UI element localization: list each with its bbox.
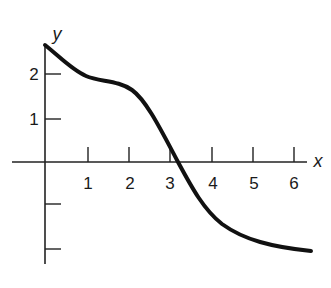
x-ticks <box>88 147 294 162</box>
y-tick-label-2: 2 <box>29 65 38 84</box>
x-tick-label-2: 2 <box>125 174 134 193</box>
x-tick-label-5: 5 <box>249 174 258 193</box>
x-tick-label-3: 3 <box>165 174 174 193</box>
y-tick-label-1: 1 <box>29 110 38 129</box>
x-tick-label-1: 1 <box>83 174 92 193</box>
x-tick-label-6: 6 <box>289 174 298 193</box>
x-axis-label: x <box>313 151 324 171</box>
y-axis-label: y <box>51 24 63 44</box>
function-curve <box>45 45 311 251</box>
x-tick-label-4: 4 <box>208 174 217 193</box>
function-graph: 1 2 3 4 5 6 1 2 y x <box>0 0 331 288</box>
